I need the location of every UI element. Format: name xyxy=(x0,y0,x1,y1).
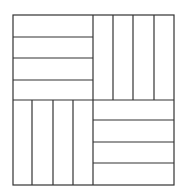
parquet-diagram xyxy=(0,0,185,196)
